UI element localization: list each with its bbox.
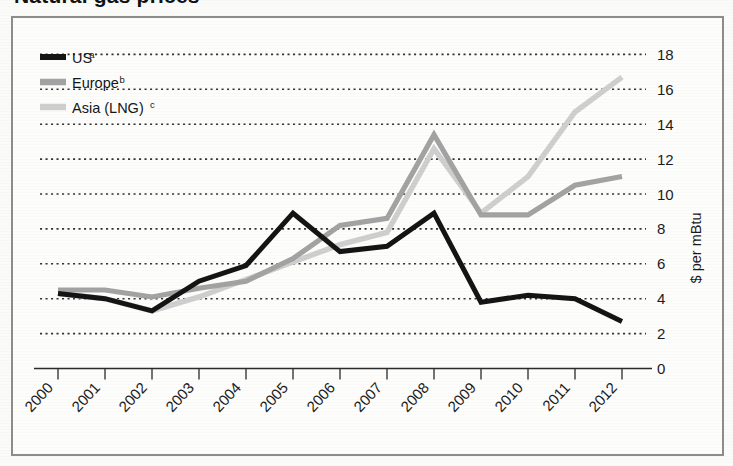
x-tick-label-2009: 2009 [444,379,479,415]
y-tick-label-6: 6 [657,255,665,272]
y-tick-label-2: 2 [657,325,665,342]
y-tick-labels: 024681012141618 [657,46,674,377]
series-line-us [58,213,622,321]
y-axis-title: $ per mBtu [688,213,704,284]
x-tick-label-2003: 2003 [162,379,197,415]
series-line-europe [58,135,622,297]
x-tick-label-2002: 2002 [115,379,150,415]
chart-page: Natural gas prices 024681012141618 20002… [0,0,733,466]
legend-footnote-europe: b [120,74,125,85]
x-tick-label-2012: 2012 [585,379,620,415]
line-chart: 024681012141618 200020012002200320042005… [0,0,733,466]
x-tick-labels: 2000200120022003200420052006200720082009… [21,379,620,415]
x-tick-label-2010: 2010 [491,379,526,415]
x-tick-label-2011: 2011 [539,379,573,414]
legend-footnote-asia-lng: c [150,99,155,110]
x-tick-label-2006: 2006 [303,379,338,415]
y-tick-label-10: 10 [657,186,674,203]
axes-group [34,369,652,380]
y-tick-label-16: 16 [657,81,674,98]
y-tick-label-14: 14 [657,116,674,133]
y-tick-label-12: 12 [657,151,674,168]
y-tick-label-8: 8 [657,220,665,237]
y-axis-title-text: $ per mBtu [688,213,704,284]
x-tick-label-2001: 2001 [68,379,103,415]
x-tick-label-2004: 2004 [209,379,244,415]
legend-label-europe: Europe [72,75,119,91]
y-tick-label-0: 0 [657,360,665,377]
x-tick-label-2008: 2008 [397,379,432,415]
x-tick-label-2005: 2005 [256,379,291,415]
legend-label-asia-lng: Asia (LNG) [72,100,144,116]
x-tick-label-2000: 2000 [21,379,56,415]
legend-footnote-us: a [89,49,95,60]
legend: USaEuropebAsia (LNG)c [40,49,155,116]
y-tick-label-4: 4 [657,290,665,307]
x-tick-label-2007: 2007 [350,379,385,415]
y-tick-label-18: 18 [657,46,674,63]
